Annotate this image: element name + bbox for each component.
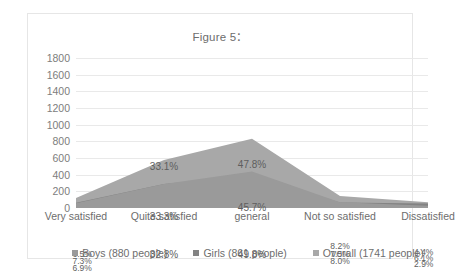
- legend-label: Boys (880 people): [82, 247, 167, 259]
- legend-label: Girls (861 people): [203, 247, 286, 259]
- data-label: 2.9%: [414, 259, 433, 269]
- x-axis-labels: Very satisfiedQuite satisfiedgeneralNot …: [76, 211, 428, 241]
- x-axis-tick: Quite satisfied: [124, 211, 204, 223]
- legend-swatch-icon: [313, 250, 319, 256]
- y-axis-tick: 400: [52, 169, 70, 181]
- y-axis-tick: 800: [52, 135, 70, 147]
- chart-container: Figure 5： 020040060080010001200140016001…: [27, 13, 413, 259]
- legend-item[interactable]: Girls (861 people): [193, 247, 286, 259]
- chart-title: Figure 5：: [28, 28, 412, 44]
- y-axis-tick: 1400: [47, 85, 70, 97]
- y-axis-tick: 1000: [47, 119, 70, 131]
- y-axis-tick: 200: [52, 185, 70, 197]
- data-label: 33.1%: [150, 161, 178, 172]
- y-axis-tick: 1200: [47, 102, 70, 114]
- legend-swatch-icon: [193, 250, 199, 256]
- chart-legend: Boys (880 people)Girls (861 people)Overa…: [55, 247, 441, 259]
- legend-item[interactable]: Overall (1741 people): [313, 247, 424, 259]
- y-axis-tick: 1800: [47, 52, 70, 64]
- area-series-group: [76, 58, 428, 208]
- x-axis-tick: Dissatisfied: [388, 211, 459, 223]
- x-axis-tick: Very satisfied: [36, 211, 116, 223]
- x-axis-tick: general: [212, 211, 292, 223]
- legend-label: Overall (1741 people): [323, 247, 424, 259]
- plot-area: 0200400600800100012001400160018006.5%7.3…: [76, 58, 428, 208]
- y-axis-tick: 1600: [47, 69, 70, 81]
- x-axis-tick: Not so satisfied: [300, 211, 380, 223]
- data-label: 6.9%: [73, 263, 92, 273]
- legend-item[interactable]: Boys (880 people): [72, 247, 167, 259]
- y-axis-tick: 600: [52, 152, 70, 164]
- data-label: 47.8%: [238, 159, 266, 170]
- legend-swatch-icon: [72, 250, 78, 256]
